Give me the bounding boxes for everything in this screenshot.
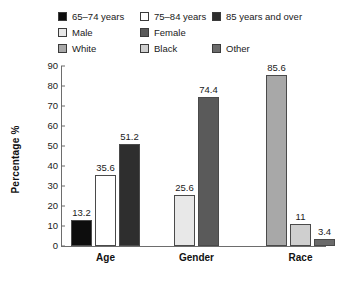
bar-value-label: 35.6	[96, 163, 115, 173]
legend-row: 65–74 years75–84 years85 years and over	[58, 9, 336, 24]
legend-item[interactable]: Male	[58, 28, 140, 38]
y-axis-tick-mark	[61, 186, 65, 187]
legend-swatch-icon	[58, 28, 67, 37]
bar	[71, 220, 92, 246]
x-axis-group-label: Race	[289, 252, 313, 263]
legend-swatch-icon	[58, 12, 67, 21]
y-axis-tick-mark	[61, 66, 65, 67]
legend-swatch-icon	[140, 12, 149, 21]
legend-item-label: 75–84 years	[154, 12, 206, 22]
bar-value-label: 51.2	[120, 132, 139, 142]
bar-value-label: 13.2	[72, 208, 91, 218]
chart-legend: 65–74 years75–84 years85 years and overM…	[58, 9, 336, 57]
legend-item[interactable]: 75–84 years	[140, 12, 212, 22]
bar-value-label: 3.4	[318, 227, 331, 237]
y-axis-label: Percentage %	[10, 113, 21, 207]
y-axis-tick-label: 20	[30, 201, 58, 211]
legend-item-label: Female	[154, 28, 186, 38]
x-axis-line	[61, 246, 326, 247]
y-axis-tick-label: 10	[30, 221, 58, 231]
legend-item-label: White	[72, 44, 96, 54]
bar	[314, 239, 335, 246]
legend-item-label: Male	[72, 28, 93, 38]
y-axis-tick-labels: 9080706050403020100	[30, 66, 58, 246]
bar	[198, 97, 219, 246]
legend-item-label: 65–74 years	[72, 12, 124, 22]
legend-swatch-icon	[140, 28, 149, 37]
y-axis-tick-mark	[61, 126, 65, 127]
y-axis-tick-mark	[61, 86, 65, 87]
legend-swatch-icon	[58, 44, 67, 53]
legend-row: WhiteBlackOther	[58, 41, 336, 56]
bar-value-label: 74.4	[199, 85, 218, 95]
bar	[174, 195, 195, 246]
y-axis-tick-mark	[61, 246, 65, 247]
legend-item[interactable]: Other	[212, 44, 250, 54]
legend-item-label: 85 years and over	[226, 12, 302, 22]
bar	[119, 144, 140, 246]
y-axis-tick-label: 50	[30, 141, 58, 151]
legend-item[interactable]: White	[58, 44, 140, 54]
bar-series-container: 13.235.651.2Age25.674.4Gender85.6113.4Ra…	[61, 66, 326, 246]
legend-item-label: Other	[226, 44, 250, 54]
legend-item[interactable]: 65–74 years	[58, 12, 140, 22]
bar	[266, 75, 287, 246]
legend-item-label: Black	[154, 44, 177, 54]
y-axis-tick-label: 90	[30, 61, 58, 71]
bar	[95, 175, 116, 246]
x-axis-group-label: Gender	[179, 252, 214, 263]
legend-swatch-icon	[212, 44, 221, 53]
bar	[290, 224, 311, 246]
y-axis-tick-mark	[61, 166, 65, 167]
legend-item[interactable]: Female	[140, 28, 212, 38]
legend-swatch-icon	[212, 12, 221, 21]
y-axis-tick-label: 30	[30, 181, 58, 191]
bar-value-label: 11	[296, 212, 306, 222]
y-axis-tick-label: 0	[30, 241, 58, 251]
y-axis-tick-mark	[61, 226, 65, 227]
y-axis-tick-mark	[61, 146, 65, 147]
bar-value-label: 25.6	[175, 183, 194, 193]
chart-plot-area: Percentage % 9080706050403020100 13.235.…	[0, 66, 342, 291]
legend-row: MaleFemale	[58, 25, 336, 40]
legend-item[interactable]: 85 years and over	[212, 12, 302, 22]
legend-swatch-icon	[140, 44, 149, 53]
y-axis-tick-label: 60	[30, 121, 58, 131]
y-axis-tick-label: 80	[30, 81, 58, 91]
legend-item[interactable]: Black	[140, 44, 212, 54]
y-axis-tick-label: 40	[30, 161, 58, 171]
y-axis-tick-mark	[61, 206, 65, 207]
y-axis-tick-mark	[61, 106, 65, 107]
x-axis-group-label: Age	[96, 252, 115, 263]
bar-value-label: 85.6	[267, 63, 286, 73]
y-axis-tick-label: 70	[30, 101, 58, 111]
